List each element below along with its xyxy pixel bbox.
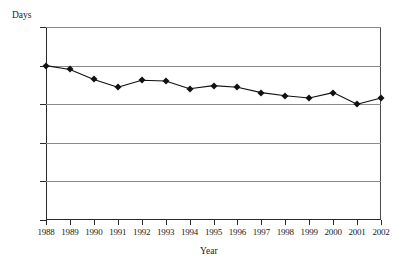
x-tick-1990 [94,220,95,225]
x-axis-title: Year [200,246,218,256]
x-tick-1995 [214,220,215,225]
x-tick-1997 [261,220,262,225]
x-tick-1994 [190,220,191,225]
line-chart: Days 050100150200250 1988198919901991199… [0,0,403,268]
y-tick-100 [40,143,46,144]
x-tick-2001 [357,220,358,225]
x-tick-1996 [237,220,238,225]
x-tick-1992 [142,220,143,225]
gridline-250 [46,27,381,28]
y-axis-title: Days [12,10,32,20]
gridline-50 [46,181,381,182]
x-tick-label-2002: 2002 [367,227,395,237]
y-tick-50 [40,181,46,182]
x-tick-1988 [46,220,47,225]
y-tick-150 [40,104,46,105]
x-tick-1998 [285,220,286,225]
x-tick-2002 [381,220,382,225]
x-tick-1999 [309,220,310,225]
gridline-200 [46,66,381,67]
x-tick-1991 [118,220,119,225]
plot-area [46,27,381,220]
gridline-150 [46,104,381,105]
x-tick-1993 [166,220,167,225]
y-tick-250 [40,27,46,28]
x-tick-1989 [70,220,71,225]
gridline-100 [46,143,381,144]
x-tick-2000 [333,220,334,225]
